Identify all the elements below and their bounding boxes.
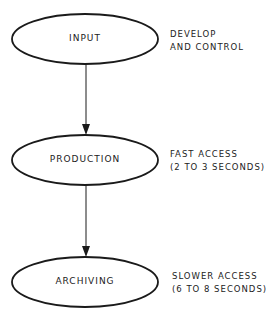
node-production-label: PRODUCTION bbox=[12, 154, 158, 164]
node-archiving-label: ARCHIVING bbox=[12, 276, 158, 286]
note-line: SLOWER ACCESS bbox=[172, 270, 267, 283]
node-archiving-note: SLOWER ACCESS (6 TO 8 SECONDS) bbox=[172, 270, 267, 296]
note-line: FAST ACCESS bbox=[170, 148, 265, 161]
node-production-note: FAST ACCESS (2 TO 3 SECONDS) bbox=[170, 148, 265, 174]
node-input-note: DEVELOP AND CONTROL bbox=[170, 28, 244, 54]
note-line: DEVELOP bbox=[170, 28, 244, 41]
note-line: AND CONTROL bbox=[170, 41, 244, 54]
arrowhead-icon bbox=[82, 124, 90, 135]
note-line: (6 TO 8 SECONDS) bbox=[172, 283, 267, 296]
note-line: (2 TO 3 SECONDS) bbox=[170, 161, 265, 174]
arrowhead-icon bbox=[82, 246, 90, 257]
node-input-label: INPUT bbox=[12, 33, 158, 43]
